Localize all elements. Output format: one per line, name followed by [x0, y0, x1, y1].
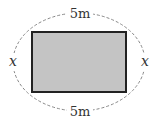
right-label: x — [141, 53, 149, 69]
top-label: 5m — [70, 6, 91, 21]
rectangle-diagram: 5m 5m x x — [0, 0, 158, 121]
bottom-label: 5m — [70, 104, 91, 119]
left-label: x — [9, 53, 17, 69]
rectangle — [32, 32, 126, 92]
